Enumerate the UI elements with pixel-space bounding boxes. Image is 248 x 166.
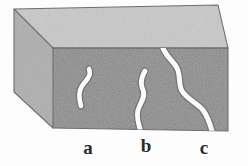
crack-block-diagram — [0, 0, 248, 166]
figure-root: a b c — [0, 0, 248, 166]
